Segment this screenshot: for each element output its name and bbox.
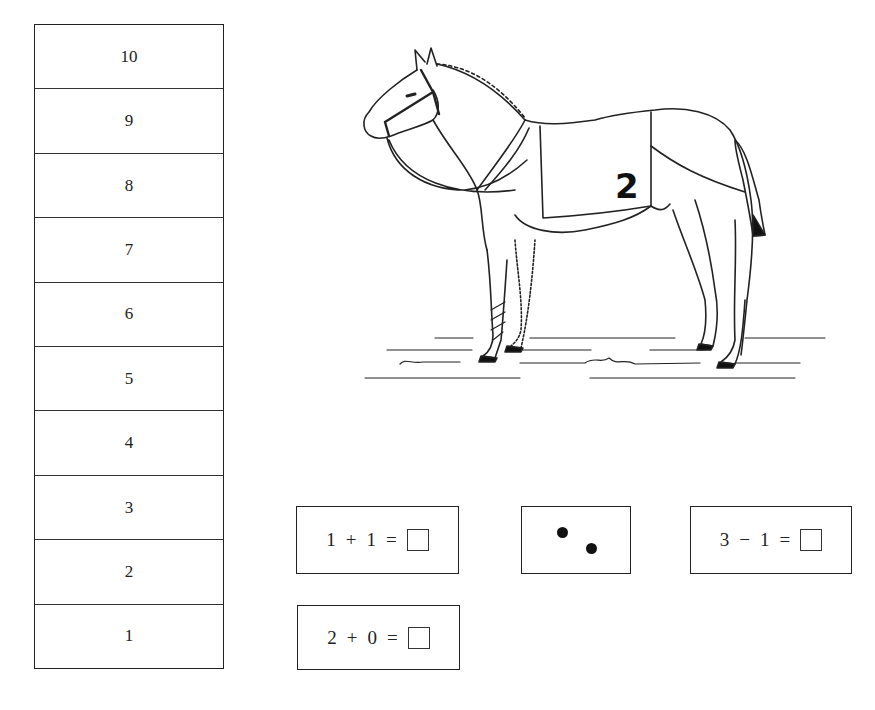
equals-sign: = [386, 529, 397, 551]
operand-left: 3 [720, 529, 730, 551]
dot [586, 543, 597, 554]
horse-illustration: 2 [355, 40, 835, 380]
blanket-number: 2 [615, 166, 639, 206]
horse-hind-leg [673, 200, 717, 346]
horse-belly [515, 204, 670, 232]
operand-left: 2 [327, 627, 337, 649]
equation-card-2: 3 − 1 = [690, 506, 852, 574]
operand-right: 1 [367, 529, 377, 551]
operator: + [347, 627, 358, 649]
ladder-rung-7[interactable]: 7 [35, 218, 223, 282]
horse-eye [407, 94, 415, 96]
horse-front-leg-far [509, 240, 535, 348]
operand-right: 0 [368, 627, 378, 649]
equals-sign: = [780, 529, 791, 551]
ladder-rung-2[interactable]: 2 [35, 540, 223, 604]
horse-front-leg [483, 250, 507, 358]
equals-sign: = [387, 627, 398, 649]
ladder-rung-9[interactable]: 9 [35, 89, 223, 153]
equation-card-1: 1 + 1 = [296, 506, 459, 574]
ladder-rung-5[interactable]: 5 [35, 347, 223, 411]
horse-ear [415, 48, 437, 70]
horse-hind-leg-near [721, 220, 745, 364]
answer-box[interactable] [407, 529, 429, 551]
ladder-rung-10[interactable]: 10 [35, 25, 223, 89]
operator: + [346, 529, 357, 551]
horse-mane [437, 64, 525, 118]
answer-box[interactable] [800, 529, 822, 551]
horse-hoof [479, 356, 497, 362]
horse-halter [385, 70, 439, 136]
dot-card [521, 506, 631, 574]
answer-box[interactable] [408, 627, 430, 649]
dot [557, 527, 568, 538]
ladder-rung-3[interactable]: 3 [35, 476, 223, 540]
operator: − [739, 529, 750, 551]
number-ladder: 10 9 8 7 6 5 4 3 2 1 [34, 24, 224, 669]
horse-breastplate [477, 120, 529, 190]
operand-right: 1 [760, 529, 770, 551]
ladder-rung-1[interactable]: 1 [35, 605, 223, 668]
ladder-rung-6[interactable]: 6 [35, 283, 223, 347]
ladder-rung-8[interactable]: 8 [35, 154, 223, 218]
operand-left: 1 [326, 529, 336, 551]
ladder-rung-4[interactable]: 4 [35, 411, 223, 475]
equation-card-3: 2 + 0 = [297, 605, 460, 670]
ground-lines [365, 338, 825, 378]
